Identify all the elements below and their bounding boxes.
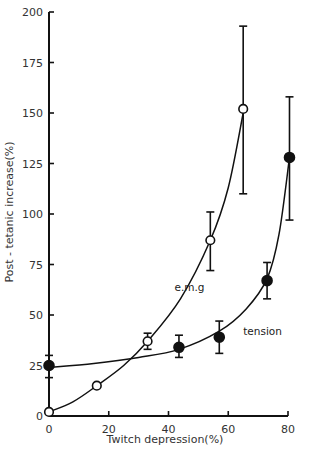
emg-point — [45, 408, 54, 417]
y-tick-label: 150 — [22, 107, 43, 120]
y-tick-label: 25 — [29, 360, 43, 373]
y-tick-label: 200 — [22, 6, 43, 19]
y-tick-label: 75 — [29, 259, 43, 272]
tension-point — [262, 276, 272, 286]
emg-point — [93, 381, 102, 390]
axes — [49, 12, 288, 416]
x-axis-title: Twitch depression(%) — [106, 433, 224, 446]
annotations: e.m.gtension — [174, 281, 281, 337]
x-tick-label: 80 — [281, 423, 295, 436]
ticks: 0255075100125150175200020406080 — [22, 6, 295, 436]
y-tick-label: 100 — [22, 208, 43, 221]
tension-point — [174, 342, 184, 352]
y-tick-label: 0 — [36, 410, 43, 423]
tension-point — [214, 332, 224, 342]
chart: 0255075100125150175200020406080 Twitch d… — [0, 0, 310, 455]
emg-point — [239, 105, 248, 114]
y-axis-title: Post - tetanic increase(%) — [3, 141, 16, 282]
y-tick-label: 125 — [22, 158, 43, 171]
data-points — [44, 105, 294, 417]
y-tick-label: 175 — [22, 57, 43, 70]
annotation-tension: tension — [243, 325, 282, 337]
x-tick-label: 0 — [46, 423, 53, 436]
emg-fit-curve — [49, 113, 243, 412]
tension-point — [284, 152, 294, 162]
tension-point — [44, 361, 54, 371]
emg-point — [206, 236, 215, 245]
annotation-emg: e.m.g — [174, 281, 204, 293]
fit-curves — [49, 113, 289, 412]
emg-point — [143, 337, 152, 346]
y-tick-label: 50 — [29, 309, 43, 322]
